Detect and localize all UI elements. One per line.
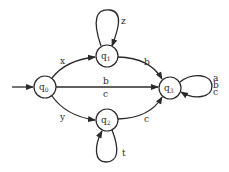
edge-label-b-top: b [103,76,109,86]
edge-q2-loop [96,130,116,162]
edge-q3-loop [180,76,212,97]
edge-label-b: b [144,57,150,67]
edge-q0-q1 [52,57,95,78]
edge-q0-q2 [52,96,95,120]
edge-label-x: x [60,56,65,66]
edge-label-z: z [121,16,126,26]
automaton-diagram: x y b c z b t c a b c q0 q1 q2 q3 [0,0,229,172]
state-q2: q2 [96,109,118,131]
state-q0: q0 [34,76,56,98]
edge-q2-q3 [118,97,162,119]
edge-q1-q3 [118,57,162,79]
edge-label-c-loop: c [213,87,218,97]
edge-label-t: t [122,148,126,158]
state-q3: q3 [159,77,181,99]
state-q1: q1 [96,45,118,67]
edge-q1-loop [96,10,118,46]
edge-label-c-bottom: c [103,89,108,99]
edge-label-c: c [144,114,149,124]
edge-label-y: y [59,112,66,122]
